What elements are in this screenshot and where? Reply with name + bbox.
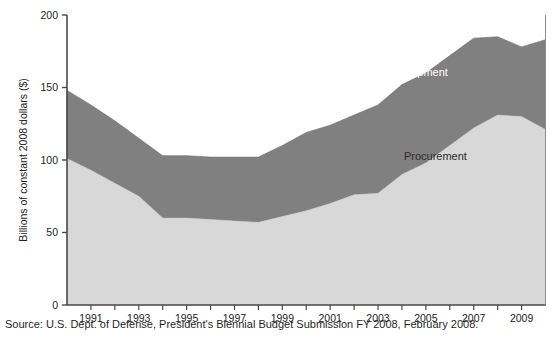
chart-canvas: 050100150200 199119931995199719992001200… xyxy=(0,0,559,340)
y-axis-tick-label: 150 xyxy=(40,81,58,93)
series-label-research-and-development: Research & Development xyxy=(323,66,448,78)
series-label-procurement: Procurement xyxy=(404,150,467,162)
source-note: Source: U.S. Dept. of Defense, President… xyxy=(5,317,554,331)
plot-area xyxy=(67,37,546,305)
y-axis-title: Billions of constant 2008 dollars ($) xyxy=(17,78,29,241)
y-axis-tick-label: 50 xyxy=(46,226,58,238)
y-axis-tick-label: 200 xyxy=(40,9,58,21)
y-axis-tick-label: 100 xyxy=(40,154,58,166)
y-axis-tick-labels: 050100150200 xyxy=(40,9,58,311)
y-axis-tick-label: 0 xyxy=(52,299,58,311)
stacked-area-chart-figure: 050100150200 199119931995199719992001200… xyxy=(0,0,559,340)
